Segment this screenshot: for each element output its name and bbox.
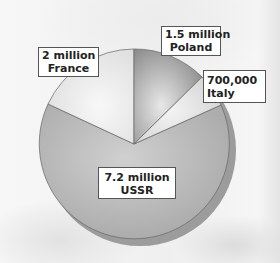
pie-chart: [0, 0, 280, 263]
label-ussr-name: USSR: [102, 184, 172, 197]
label-poland-value: 1.5 million: [165, 28, 217, 41]
label-poland-name: Poland: [165, 41, 217, 54]
label-italy: 700,000 Italy: [203, 70, 266, 103]
label-france-value: 2 million: [42, 49, 95, 62]
label-italy-name: Italy: [207, 87, 262, 100]
label-ussr-value: 7.2 million: [102, 171, 172, 184]
label-france-name: France: [42, 62, 95, 75]
label-poland: 1.5 million Poland: [161, 26, 221, 56]
label-france: 2 million France: [38, 47, 99, 77]
label-ussr: 7.2 million USSR: [98, 167, 176, 199]
label-italy-value: 700,000: [207, 74, 262, 87]
